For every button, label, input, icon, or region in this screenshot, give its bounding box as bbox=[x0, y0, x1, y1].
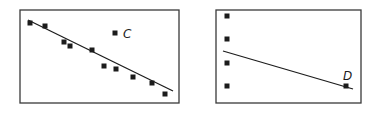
data-point bbox=[225, 14, 230, 19]
right-scatter-panel: D bbox=[216, 10, 361, 103]
data-point bbox=[102, 64, 107, 69]
outlier-point bbox=[344, 84, 349, 89]
diagram-canvas: C D bbox=[0, 0, 385, 116]
data-point bbox=[225, 37, 230, 42]
outlier-point bbox=[113, 31, 118, 36]
data-point bbox=[225, 84, 230, 89]
regression-line bbox=[223, 51, 353, 89]
regression-line bbox=[28, 20, 173, 91]
data-point bbox=[150, 81, 155, 86]
data-point bbox=[28, 21, 33, 26]
outlier-label: D bbox=[343, 69, 352, 83]
data-point bbox=[43, 24, 48, 29]
data-point bbox=[90, 48, 95, 53]
data-point bbox=[163, 92, 168, 97]
data-point bbox=[114, 67, 119, 72]
data-point bbox=[131, 75, 136, 80]
plot-frame bbox=[216, 10, 361, 103]
left-scatter-panel: C bbox=[20, 10, 179, 103]
data-point bbox=[225, 61, 230, 66]
data-point bbox=[68, 44, 73, 49]
data-point bbox=[62, 40, 67, 45]
outlier-label: C bbox=[123, 27, 132, 41]
